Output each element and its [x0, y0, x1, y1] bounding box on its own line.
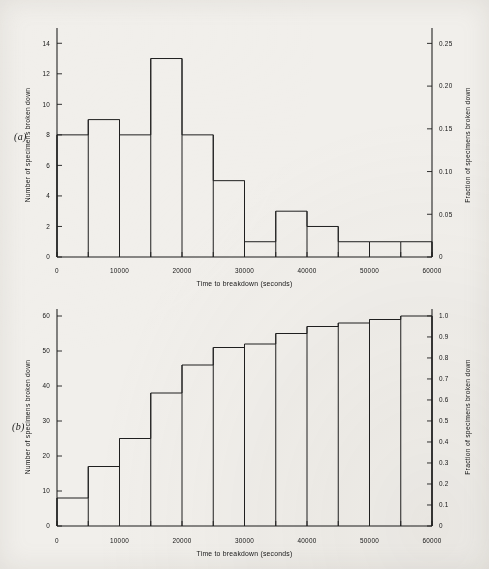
y-axis-title-left: Number of specimens broken down [24, 360, 32, 475]
y-tick-label-right: 0 [439, 522, 443, 529]
y-tick-label-right: 0.5 [439, 417, 449, 424]
y-tick-label-right: 0.1 [439, 501, 449, 508]
x-tick-label: 30000 [235, 537, 254, 544]
panel-b-cumulative-histogram: (b) 0100002000030000400005000060000Time … [0, 285, 489, 569]
y-tick-label-left: 30 [42, 417, 50, 424]
y-tick-label-right: 1.0 [439, 312, 449, 319]
y-tick-label-left: 8 [46, 131, 50, 138]
y-tick-label-right: 0.7 [439, 375, 449, 382]
x-tick-label: 20000 [172, 267, 191, 274]
y-axis-title-right: Fraction of specimens broken down [464, 87, 472, 203]
panel-a-plot: 0100002000030000400005000060000Time to b… [0, 0, 489, 290]
y-axis-title-left: Number of specimens broken down [24, 88, 32, 203]
panel-b-plot: 0100002000030000400005000060000Time to b… [0, 285, 489, 569]
x-tick-label: 40000 [297, 537, 316, 544]
y-tick-label-right: 0.05 [439, 211, 453, 218]
x-tick-label: 0 [55, 267, 59, 274]
y-tick-label-right: 0.8 [439, 354, 449, 361]
y-tick-label-left: 12 [42, 70, 50, 77]
y-tick-label-left: 0 [46, 522, 50, 529]
y-tick-label-left: 20 [42, 452, 50, 459]
y-tick-label-right: 0.4 [439, 438, 449, 445]
x-tick-label: 10000 [110, 537, 129, 544]
x-tick-label: 50000 [360, 267, 379, 274]
y-tick-label-left: 50 [42, 347, 50, 354]
y-tick-label-right: 0.3 [439, 459, 449, 466]
y-tick-label-right: 0.2 [439, 480, 449, 487]
y-tick-label-left: 10 [42, 101, 50, 108]
y-tick-label-left: 2 [46, 223, 50, 230]
x-tick-label: 60000 [422, 267, 441, 274]
figure-histogram-breakdown-times: (a) 0100002000030000400005000060000Time … [0, 0, 489, 569]
y-tick-label-left: 4 [46, 192, 50, 199]
y-tick-label-left: 14 [42, 40, 50, 47]
y-tick-label-right: 0.9 [439, 333, 449, 340]
x-tick-label: 20000 [172, 537, 191, 544]
y-tick-label-right: 0.10 [439, 168, 453, 175]
y-tick-label-right: 0.15 [439, 125, 453, 132]
x-tick-label: 30000 [235, 267, 254, 274]
y-tick-label-right: 0.20 [439, 82, 453, 89]
y-tick-label-left: 6 [46, 162, 50, 169]
panel-a-frequency-histogram: (a) 0100002000030000400005000060000Time … [0, 0, 489, 290]
x-tick-label: 60000 [422, 537, 441, 544]
x-axis-title: Time to breakdown (seconds) [196, 550, 292, 558]
y-tick-label-right: 0 [439, 253, 443, 260]
y-tick-label-left: 40 [42, 382, 50, 389]
x-tick-label: 40000 [297, 267, 316, 274]
y-axis-title-right: Fraction of specimens broken down [464, 359, 472, 475]
x-tick-label: 0 [55, 537, 59, 544]
y-tick-label-left: 10 [42, 487, 50, 494]
y-tick-label-right: 0.25 [439, 40, 453, 47]
x-tick-label: 10000 [110, 267, 129, 274]
y-tick-label-left: 0 [46, 253, 50, 260]
x-tick-label: 50000 [360, 537, 379, 544]
y-tick-label-left: 60 [42, 312, 50, 319]
y-tick-label-right: 0.6 [439, 396, 449, 403]
